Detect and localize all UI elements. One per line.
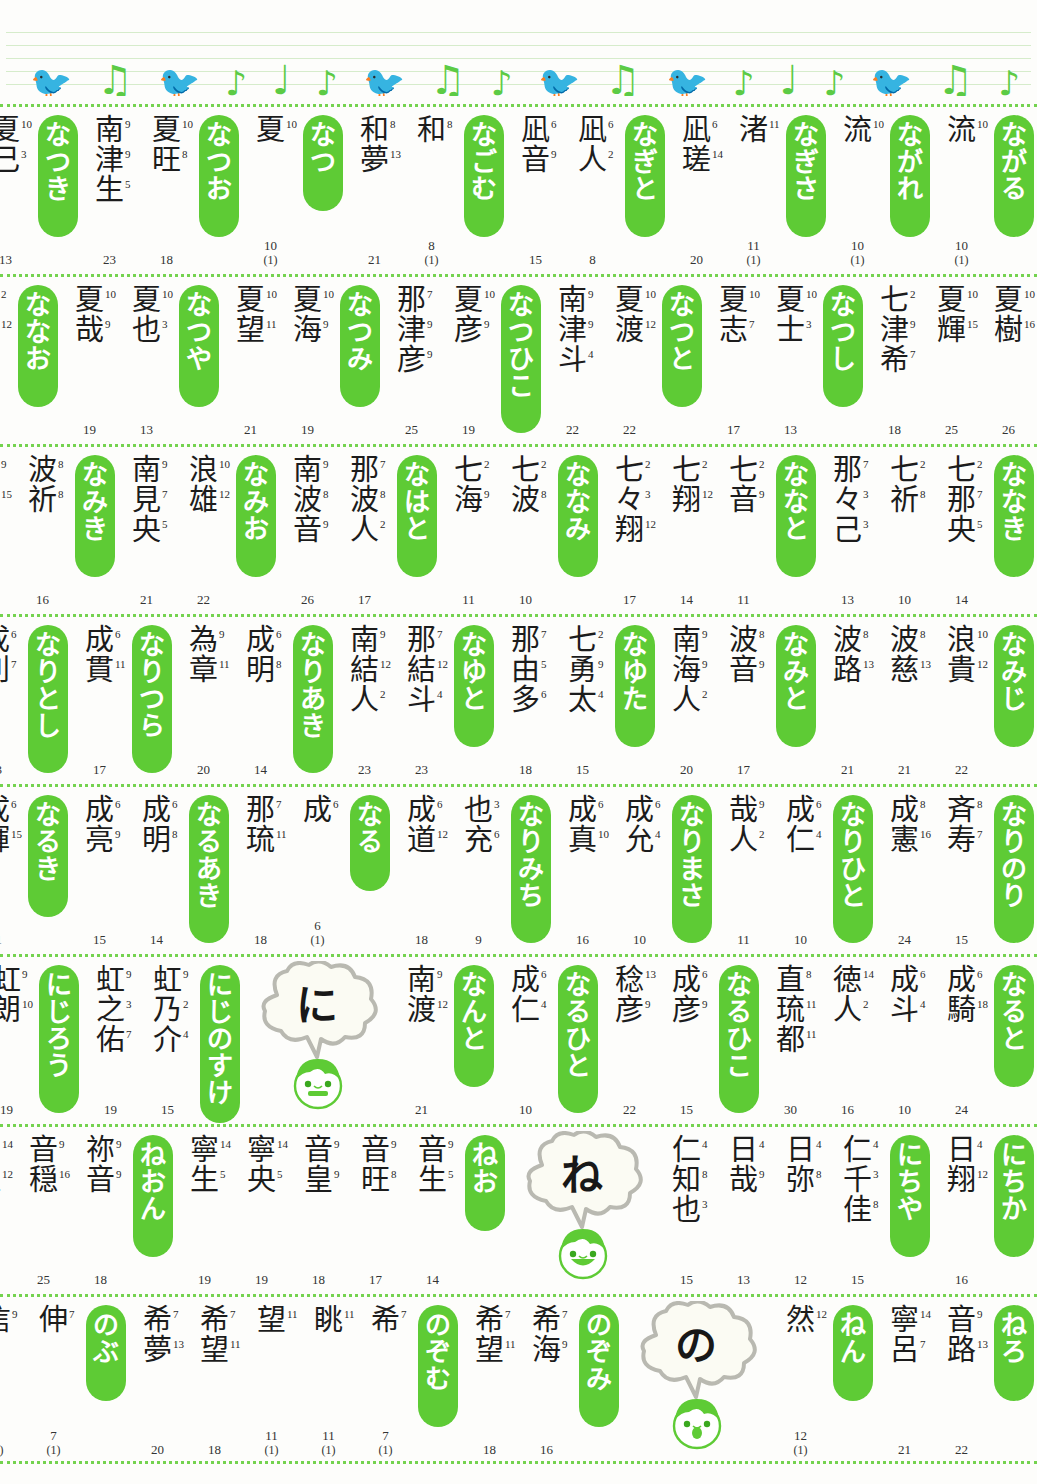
kanji-name-entry[interactable]: 波8路1321 — [819, 623, 876, 781]
kanji-name-entry[interactable]: 渚1111(1) — [725, 113, 782, 271]
reading-pill[interactable]: ななみ — [558, 455, 598, 577]
reading-entry[interactable]: なりつら — [128, 623, 175, 781]
reading-pill[interactable]: のぞみ — [579, 1305, 619, 1427]
kanji-name-entry[interactable]: 仁4千3佳815 — [829, 1133, 886, 1291]
kanji-name-entry[interactable]: 七2那7央514 — [933, 453, 990, 611]
kanji-name-entry[interactable]: 希7望1118 — [461, 1303, 518, 1461]
reading-pill[interactable]: なみお — [236, 455, 276, 577]
reading-pill[interactable]: なるひこ — [719, 965, 759, 1113]
kanji-name-entry[interactable]: 徳14人216 — [819, 963, 876, 1121]
kanji-name-entry[interactable]: 音9路1322 — [933, 1303, 990, 1461]
kanji-name-entry[interactable]: 成6真1016 — [554, 793, 611, 951]
kanji-name-entry[interactable]: 夏10海919 — [279, 283, 336, 441]
reading-pill[interactable]: ななと — [776, 455, 816, 577]
reading-pill[interactable]: ななき — [994, 455, 1034, 577]
kanji-name-entry[interactable]: 日4翔1216 — [933, 1133, 990, 1291]
reading-pill[interactable]: にじのすけ — [200, 965, 240, 1123]
reading-pill[interactable]: にちや — [890, 1135, 930, 1257]
kanji-name-entry[interactable]: 仁4知8也315 — [658, 1133, 715, 1291]
reading-entry[interactable]: なると — [990, 963, 1037, 1121]
kanji-name-entry[interactable]: 望1111(1) — [243, 1303, 300, 1461]
reading-pill[interactable]: なつ — [303, 115, 343, 211]
kanji-name-entry[interactable]: 夏10哉919 — [61, 283, 118, 441]
reading-pill[interactable]: なぎと — [625, 115, 665, 237]
reading-entry[interactable]: にちや — [886, 1133, 933, 1291]
reading-entry[interactable]: なみと — [772, 623, 819, 781]
kanji-name-entry[interactable]: 七2々3翔1217 — [601, 453, 658, 611]
reading-pill[interactable]: なみじ — [994, 625, 1034, 747]
kanji-name-entry[interactable]: 七2勇9太415 — [554, 623, 611, 781]
kanji-name-entry[interactable]: 南9津9斗422 — [544, 283, 601, 441]
kanji-name-entry[interactable]: 浪10貴1222 — [933, 623, 990, 781]
reading-pill[interactable]: なつひこ — [501, 285, 541, 433]
kanji-name-entry[interactable]: 七2翔1214 — [658, 453, 715, 611]
kanji-name-entry[interactable]: 和88(1) — [403, 113, 460, 271]
reading-pill[interactable]: なはと — [397, 455, 437, 577]
reading-entry[interactable]: なりひと — [829, 793, 876, 951]
kanji-name-entry[interactable]: 南9津9生523 — [81, 113, 138, 271]
kanji-name-entry[interactable]: 音9旺817 — [347, 1133, 404, 1291]
reading-entry[interactable]: なつし — [819, 283, 866, 441]
reading-entry[interactable]: ねん — [829, 1303, 876, 1461]
reading-entry[interactable]: なつと — [658, 283, 705, 441]
reading-entry[interactable]: なりみち — [507, 793, 554, 951]
reading-pill[interactable]: ねおん — [133, 1135, 173, 1257]
kanji-name-entry[interactable]: 那7々3己313 — [819, 453, 876, 611]
kanji-name-entry[interactable]: 稔13彦922 — [601, 963, 658, 1121]
reading-entry[interactable]: なるひと — [554, 963, 601, 1121]
reading-pill[interactable]: なつや — [179, 285, 219, 407]
kanji-name-entry[interactable]: 成6明814 — [128, 793, 185, 951]
kanji-name-entry[interactable]: 寧14生519 — [176, 1133, 233, 1291]
reading-entry[interactable]: なぎさ — [782, 113, 829, 271]
kanji-name-entry[interactable]: 那7波8人217 — [336, 453, 393, 611]
reading-entry[interactable]: なゆと — [450, 623, 497, 781]
reading-pill[interactable]: なぎさ — [786, 115, 826, 237]
reading-entry[interactable]: なゆた — [611, 623, 658, 781]
kanji-name-entry[interactable]: 夏1010(1) — [242, 113, 299, 271]
kanji-name-entry[interactable]: 流1010(1) — [829, 113, 886, 271]
reading-pill[interactable]: のぶ — [86, 1305, 126, 1401]
reading-pill[interactable]: にちか — [994, 1135, 1034, 1257]
reading-pill[interactable]: ながれ — [890, 115, 930, 237]
kanji-name-entry[interactable]: 成6仁410 — [497, 963, 554, 1121]
reading-entry[interactable]: なごむ — [460, 113, 507, 271]
reading-entry[interactable]: にじろう — [35, 963, 82, 1121]
kanji-name-entry[interactable]: 夏10輝1525 — [923, 283, 980, 441]
kanji-name-entry[interactable]: 寧14呂721 — [876, 1303, 933, 1461]
reading-entry[interactable]: なみき — [71, 453, 118, 611]
reading-pill[interactable]: なごむ — [464, 115, 504, 237]
reading-entry[interactable]: なるひこ — [715, 963, 762, 1121]
reading-entry[interactable]: のぞみ — [575, 1303, 622, 1461]
reading-pill[interactable]: ねお — [465, 1135, 505, 1231]
kanji-name-entry[interactable]: 凪6人28 — [564, 113, 621, 271]
kanji-name-entry[interactable]: 夏10望1121 — [222, 283, 279, 441]
kanji-name-entry[interactable]: 成6斗410 — [876, 963, 933, 1121]
reading-pill[interactable]: なる — [350, 795, 390, 891]
reading-pill[interactable]: なりみち — [511, 795, 551, 943]
kanji-name-entry[interactable]: 夏10彦919 — [440, 283, 497, 441]
reading-entry[interactable]: ななみ — [554, 453, 601, 611]
reading-entry[interactable]: なぎと — [621, 113, 668, 271]
reading-entry[interactable]: のぞむ — [414, 1303, 461, 1461]
reading-pill[interactable]: なみき — [75, 455, 115, 577]
kanji-name-entry[interactable]: 那7琉1118 — [232, 793, 289, 951]
kanji-name-entry[interactable]: 寧14温1226 — [0, 1133, 15, 1291]
kanji-name-entry[interactable]: 為9章1120 — [175, 623, 232, 781]
kanji-name-entry[interactable]: 夏10旺818 — [138, 113, 195, 271]
kanji-name-entry[interactable]: 日4哉913 — [715, 1133, 772, 1291]
reading-entry[interactable]: のぶ — [82, 1303, 129, 1461]
reading-entry[interactable]: ねろ — [990, 1303, 1037, 1461]
kanji-name-entry[interactable]: 也3充69 — [450, 793, 507, 951]
reading-pill[interactable]: なるき — [28, 795, 68, 917]
reading-pill[interactable]: にじろう — [39, 965, 79, 1113]
kanji-name-entry[interactable]: 然1212(1) — [772, 1303, 829, 1461]
kanji-name-entry[interactable]: 凪6瑳1420 — [668, 113, 725, 271]
reading-pill[interactable]: なゆと — [454, 625, 494, 747]
kanji-name-entry[interactable]: 南9渡1221 — [393, 963, 450, 1121]
reading-entry[interactable]: ながる — [990, 113, 1037, 271]
reading-pill[interactable]: なると — [994, 965, 1034, 1087]
kanji-name-entry[interactable]: 眺1111(1) — [300, 1303, 357, 1461]
kanji-name-entry[interactable]: 成6道1218 — [393, 793, 450, 951]
kanji-name-entry[interactable]: 祢9音918 — [72, 1133, 129, 1291]
kanji-name-entry[interactable]: 成6利713 — [0, 623, 24, 781]
